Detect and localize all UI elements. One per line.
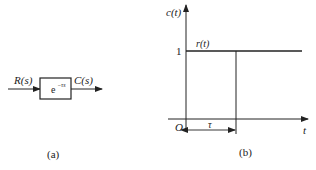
- caption-b: (b): [239, 146, 252, 159]
- level-one-label: 1: [176, 45, 182, 57]
- caption-a: (a): [47, 148, 60, 161]
- time-response-plot: c(t) t O 1 r(t) τ (b): [166, 5, 308, 159]
- output-label: C(s): [74, 74, 93, 87]
- curve-label: r(t): [196, 38, 210, 50]
- delay-label: τ: [208, 119, 212, 130]
- block-diagram: R(s) e −τs C(s) (a): [8, 74, 102, 161]
- y-axis-label: c(t): [166, 6, 182, 19]
- x-axis-label: t: [303, 124, 307, 136]
- block-transfer-exponent: −τs: [57, 82, 66, 88]
- diagram-canvas: R(s) e −τs C(s) (a) c(t) t O 1 r(t) τ (b…: [0, 0, 316, 170]
- input-label: R(s): [13, 74, 33, 87]
- block-transfer-base: e: [51, 84, 56, 95]
- origin-label: O: [175, 121, 183, 133]
- delay-block: [40, 78, 71, 99]
